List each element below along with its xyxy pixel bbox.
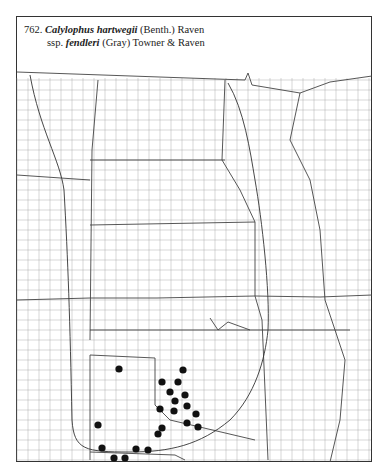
occurrence-dot xyxy=(192,410,199,417)
occurrence-dot xyxy=(181,391,188,398)
occurrence-dot xyxy=(158,378,165,385)
occurrence-dot xyxy=(194,423,201,430)
occurrence-dot xyxy=(115,365,122,372)
occurrence-dot xyxy=(170,407,177,414)
county-map xyxy=(0,0,382,475)
occurrence-dot xyxy=(174,378,181,385)
occurrence-dot xyxy=(98,444,105,451)
occurrence-dot xyxy=(166,388,173,395)
occurrence-dot xyxy=(171,397,178,404)
occurrence-dot xyxy=(179,366,186,373)
occurrence-dot xyxy=(94,421,101,428)
occurrence-dot xyxy=(183,402,190,409)
occurrence-dot xyxy=(110,454,117,461)
occurrence-dot xyxy=(156,405,163,412)
occurrence-dot xyxy=(183,419,190,426)
occurrence-dot xyxy=(144,446,151,453)
occurrence-dot xyxy=(132,445,139,452)
occurrence-dot xyxy=(158,424,165,431)
occurrence-dot xyxy=(154,430,161,437)
occurrence-dot xyxy=(121,454,128,461)
